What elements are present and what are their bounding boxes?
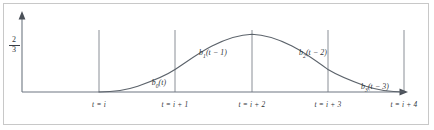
curve-label-b2: b2(t − 2): [299, 48, 327, 59]
curve-label-b2-arg: (t − 2): [306, 48, 327, 57]
x-tick-label-t-i-plus-3: t = i + 3: [315, 100, 342, 109]
y-axis-value-two-thirds: 2 3: [8, 36, 20, 54]
curve-label-b1-arg: (t − 1): [206, 48, 227, 57]
x-tick-label-t-i-plus-2: t = i + 2: [239, 100, 266, 109]
fraction-numerator: 2: [8, 36, 20, 45]
y-axis-arrow-icon: [19, 11, 26, 20]
curve-label-b0: b0(t): [152, 78, 167, 89]
x-tick-label-t-i-plus-1: t = i + 1: [162, 100, 189, 109]
curve-label-b3-arg: (t − 3): [368, 82, 389, 91]
x-tick-label-t-i-plus-4: t = i + 4: [391, 100, 418, 109]
curve-label-b1: b1(t − 1): [199, 48, 227, 59]
curve-label-b0-arg: (t): [159, 78, 167, 87]
x-tick-label-t-i: t = i: [92, 100, 106, 109]
curve-label-b3: b3(t − 3): [361, 82, 389, 93]
bspline-basis-figure: 2 3 t = i t = i + 1 t = i + 2 t = i + 3 …: [0, 0, 434, 130]
fraction-denominator: 3: [8, 46, 20, 55]
plot-canvas: [0, 0, 434, 130]
